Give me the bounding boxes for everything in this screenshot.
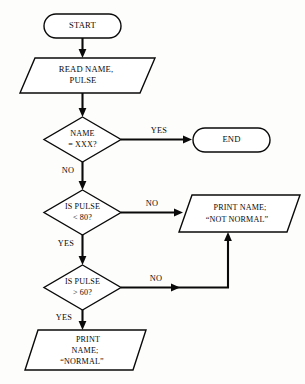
connector-read-to-decision-name [79, 93, 87, 117]
arrow-head-icon [79, 181, 87, 190]
decision-name-label-line2: = XXX? [68, 140, 97, 149]
read-input-label-line2: PULSE [69, 75, 96, 85]
connector-name-yes-to-end: YES [121, 126, 192, 143]
node-start[interactable]: START [44, 14, 121, 38]
connector-pulse60-no-to-print-not-normal: NO [121, 232, 232, 291]
connector-start-to-read [79, 38, 87, 58]
print-normal-label-line2: NAME; [72, 346, 99, 355]
arrow-head-icon [79, 49, 87, 58]
arrow-head-icon [79, 108, 87, 117]
branch-label-pulse80-yes: YES [58, 239, 74, 248]
node-decision-pulse-under-80[interactable]: IS PULSE < 80? [44, 190, 121, 235]
node-read-input[interactable]: READ NAME, PULSE [20, 58, 155, 93]
connector-pulse80-no-to-print-not-normal: NO [121, 199, 183, 216]
print-not-normal-label-line1: PRINT NAME; [214, 203, 267, 212]
arrow-head-icon [224, 232, 232, 241]
branch-label-pulse60-no: NO [150, 274, 162, 283]
connector-name-no-to-pulse80: NO [62, 162, 87, 190]
branch-label-name-yes: YES [151, 126, 167, 135]
flowchart-diagram: START READ NAME, PULSE NAME = XXX? YES E… [0, 0, 305, 384]
decision-name-label-line1: NAME [70, 129, 94, 138]
arrow-head-icon [171, 284, 180, 292]
decision-pulse60-label-line1: IS PULSE [65, 277, 100, 286]
print-not-normal-label-line2: “NOT NORMAL” [206, 215, 269, 224]
print-normal-label-line3: “NORMAL” [60, 357, 104, 366]
node-decision-pulse-over-60[interactable]: IS PULSE > 60? [44, 265, 121, 310]
arrow-head-icon [79, 256, 87, 265]
read-input-label-line1: READ NAME, [59, 64, 114, 74]
branch-label-pulse80-no: NO [146, 199, 158, 208]
arrow-head-icon [79, 321, 87, 330]
print-not-normal-parallelogram-shape [179, 195, 300, 232]
node-end[interactable]: END [193, 128, 270, 152]
node-decision-name[interactable]: NAME = XXX? [44, 117, 121, 162]
decision-pulse60-label-line2: > 60? [73, 288, 92, 297]
node-print-normal[interactable]: PRINT NAME; “NORMAL” [25, 330, 146, 370]
connector-pulse60-yes-to-print-normal: YES [56, 310, 87, 330]
arrow-head-icon [183, 136, 192, 144]
node-print-not-normal[interactable]: PRINT NAME; “NOT NORMAL” [179, 195, 300, 232]
print-normal-label-line1: PRINT [76, 335, 100, 344]
end-label: END [222, 134, 240, 144]
start-label: START [69, 20, 96, 30]
connector-pulse80-yes-to-pulse60: YES [58, 235, 87, 265]
decision-pulse80-label-line1: IS PULSE [65, 202, 100, 211]
branch-label-pulse60-yes: YES [56, 313, 72, 322]
arrow-head-icon [174, 209, 183, 217]
decision-pulse80-label-line2: < 80? [73, 213, 92, 222]
branch-label-name-no: NO [62, 166, 74, 175]
